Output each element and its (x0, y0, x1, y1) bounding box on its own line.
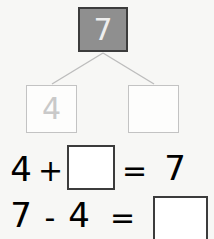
math-worksheet: 7 4 4 + = 7 7 - 4 = (0, 0, 214, 239)
equation2-minus-operator: - (40, 203, 60, 233)
number-bond-whole-value: 7 (93, 15, 112, 45)
number-bond-part-left-value: 4 (42, 94, 61, 124)
equation2-equals-sign: = (110, 203, 134, 233)
equation2-left-operand: 7 (8, 198, 34, 232)
number-bond-part-box-left[interactable]: 4 (26, 85, 77, 133)
equation1-plus-operator: + (38, 156, 60, 186)
equation1-equals-sign: = (122, 156, 146, 186)
equation2-answer-box[interactable] (153, 196, 208, 239)
number-bond-diagram: 7 4 (0, 0, 214, 140)
equation2-right-operand: 4 (66, 198, 92, 232)
equation1-answer-box[interactable] (67, 145, 115, 190)
number-bond-whole-box[interactable]: 7 (78, 7, 128, 52)
equation1-left-operand: 4 (8, 152, 34, 186)
equation1-right-operand: 7 (160, 151, 190, 185)
number-bond-part-box-right[interactable] (128, 85, 179, 133)
